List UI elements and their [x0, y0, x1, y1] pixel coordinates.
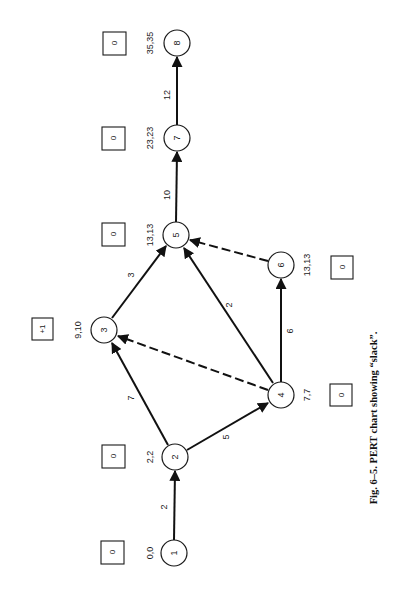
node-number: 4: [276, 392, 286, 397]
slack-box-node-8: 0: [103, 32, 126, 55]
node-6: 6: [268, 252, 294, 278]
times-node-8: 35,35: [145, 32, 155, 55]
node-1: 1: [161, 540, 187, 566]
event-times: 0,0 2,2 9,10 7,7 13,13 13,13 23,23 35,35: [73, 32, 312, 560]
node-number: 6: [276, 262, 286, 267]
node-number: 3: [99, 327, 109, 332]
node-5: 5: [163, 222, 189, 248]
edge-1-2: [174, 471, 175, 540]
slack-value: 0: [109, 135, 118, 140]
slack-value: +1: [38, 324, 47, 334]
edges-layer: [112, 57, 281, 540]
edge-4-3-dummy: [118, 336, 268, 390]
node-number: 2: [170, 454, 180, 459]
edge-6-5-dummy: [190, 240, 268, 261]
edge-5-7: [176, 152, 177, 222]
times-node-6: 13,13: [302, 254, 312, 277]
node-number: 8: [172, 40, 182, 45]
slack-box-node-7: 0: [102, 127, 125, 150]
figure-caption: Fig. 6–5. PERT chart showing “slack”.: [368, 331, 379, 504]
node-7: 7: [164, 125, 190, 151]
edge-2-3: [112, 343, 168, 445]
edge-4-5: [184, 248, 273, 383]
edge-3-5: [112, 246, 166, 318]
slack-value: 0: [108, 549, 117, 554]
slack-box-node-3: +1: [32, 318, 53, 340]
node-3: 3: [91, 317, 117, 343]
slack-box-node-6: 0: [331, 256, 353, 279]
times-node-2: 2,2: [145, 451, 155, 464]
duration-4-5: 2: [224, 302, 234, 307]
duration-7-8: 12: [162, 90, 172, 100]
edge-2-4: [187, 403, 268, 450]
nodes-layer: 1 2 3 4 5 6 7 8: [91, 30, 294, 566]
slack-boxes: 0 0 +1 0 0 0 0 0: [32, 32, 353, 564]
slack-box-node-5: 0: [102, 223, 125, 246]
slack-box-node-4: 0: [330, 384, 352, 406]
node-number: 7: [172, 135, 182, 140]
times-node-4: 7,7: [302, 389, 312, 402]
slack-value: 0: [109, 231, 118, 236]
duration-5-7: 10: [162, 190, 172, 200]
duration-2-3: 7: [126, 395, 136, 400]
duration-2-4: 5: [221, 434, 231, 439]
duration-4-6: 6: [285, 328, 295, 333]
slack-value: 0: [110, 40, 119, 45]
node-number: 5: [171, 232, 181, 237]
slack-value: 0: [338, 264, 347, 269]
slack-value: 0: [109, 453, 118, 458]
node-number: 1: [169, 550, 179, 555]
duration-3-5: 3: [126, 272, 136, 277]
times-node-1: 0,0: [145, 547, 155, 560]
duration-1-2: 2: [159, 504, 169, 509]
duration-labels: 2 7 5 3 2 6 10 12: [126, 90, 295, 510]
node-8: 8: [164, 30, 190, 56]
node-2: 2: [162, 444, 188, 470]
node-4: 4: [268, 382, 294, 408]
slack-box-node-2: 0: [102, 445, 125, 468]
pert-chart: 2 7 5 3 2 6 10 12 1 2 3 4 5 6: [0, 0, 397, 603]
times-node-5: 13,13: [145, 224, 155, 247]
slack-value: 0: [337, 392, 346, 397]
slack-box-node-1: 0: [101, 541, 124, 564]
times-node-3: 9,10: [73, 321, 83, 339]
times-node-7: 23,23: [145, 127, 155, 150]
